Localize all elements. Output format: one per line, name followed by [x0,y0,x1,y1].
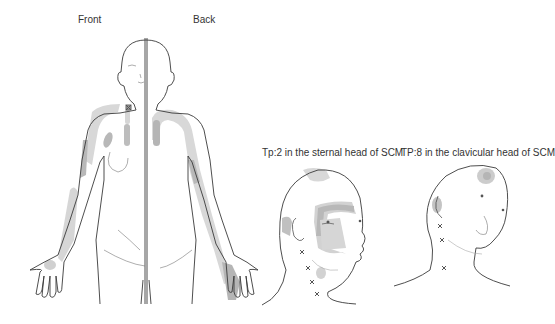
referral-shading-body [44,104,240,300]
trigger-point-neck [126,105,131,110]
head-sternal-figure [262,168,365,305]
head-clavicular-figure [394,165,510,286]
body-figure [30,38,258,304]
trigger-points-clavicular [438,224,446,270]
